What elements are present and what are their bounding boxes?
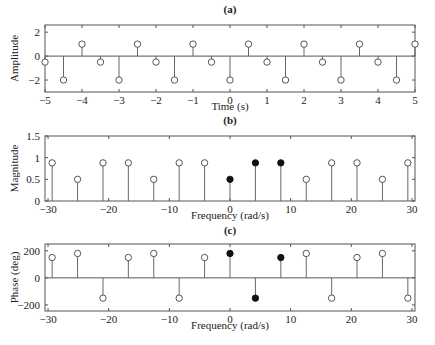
stem-marker-open	[190, 41, 196, 47]
panel-b: (b)−30−20−10010203000.511.5Frequency (ra…	[8, 114, 418, 222]
y-tick-label: −200	[17, 299, 40, 311]
x-tick-label: 10	[285, 203, 297, 215]
stem-marker-open	[125, 160, 131, 166]
stem-marker-open	[134, 41, 140, 47]
panel-a: (a)−5−4−3−2−1012345−202Time (s)Amplitude	[8, 3, 418, 113]
stem-marker-open	[379, 250, 385, 256]
x-tick-label: 1	[264, 94, 270, 106]
stem-marker-open	[303, 176, 309, 182]
stem-marker-filled	[227, 176, 233, 182]
stem-marker-filled	[278, 160, 284, 166]
series	[227, 250, 284, 301]
stem-marker-open	[60, 77, 66, 83]
y-axis-label: Amplitude	[8, 35, 20, 82]
x-axis-label: Frequency (rad/s)	[191, 209, 269, 222]
stem-marker-open	[100, 160, 106, 166]
stem-marker-filled	[227, 250, 233, 256]
stem-marker-open	[74, 176, 80, 182]
stem-marker-open	[176, 160, 182, 166]
x-tick-label: −20	[100, 203, 118, 215]
stem-marker-open	[412, 41, 418, 47]
panel-title: (a)	[224, 3, 237, 16]
stem-marker-open	[375, 59, 381, 65]
stem-marker-open	[151, 176, 157, 182]
stem-marker-open	[328, 295, 334, 301]
stem-marker-open	[49, 160, 55, 166]
x-tick-label: 20	[346, 313, 358, 325]
stem-marker-open	[356, 41, 362, 47]
stem-marker-open	[201, 254, 207, 260]
x-tick-label: −20	[100, 313, 118, 325]
stem-marker-open	[227, 77, 233, 83]
stem-marker-open	[393, 77, 399, 83]
y-tick-label: 1.5	[26, 130, 40, 142]
y-tick-label: 200	[24, 245, 41, 257]
stem-plots-figure: (a)−5−4−3−2−1012345−202Time (s)Amplitude…	[0, 0, 435, 345]
panel-title: (b)	[223, 114, 237, 127]
x-tick-label: −4	[76, 94, 88, 106]
x-tick-label: −30	[39, 313, 57, 325]
x-tick-label: −5	[39, 94, 51, 106]
y-tick-label: 2	[35, 26, 41, 38]
y-axis-label: Phase (deg)	[8, 251, 21, 303]
stem-marker-open	[379, 176, 385, 182]
x-tick-label: −3	[113, 94, 125, 106]
stem-marker-open	[151, 250, 157, 256]
stem-marker-open	[100, 295, 106, 301]
x-tick-label: −2	[150, 94, 162, 106]
stem-marker-open	[264, 59, 270, 65]
x-tick-label: 30	[406, 203, 418, 215]
stem-marker-open	[74, 250, 80, 256]
stem-marker-open	[405, 160, 411, 166]
y-tick-label: 0	[35, 50, 41, 62]
stem-marker-open	[405, 295, 411, 301]
x-tick-label: 4	[375, 94, 381, 106]
x-tick-label: 20	[346, 203, 358, 215]
stem-marker-open	[79, 41, 85, 47]
stem-marker-open	[125, 254, 131, 260]
stem-marker-open	[301, 41, 307, 47]
stem-marker-open	[201, 160, 207, 166]
panel-c: (c)−30−20−100102030−2000200Frequency (ra…	[8, 224, 418, 332]
stem-marker-open	[354, 254, 360, 260]
x-tick-label: 3	[338, 94, 344, 106]
y-tick-label: 0.5	[26, 173, 40, 185]
stem-marker-open	[42, 59, 48, 65]
x-tick-label: −10	[161, 203, 179, 215]
stem-marker-open	[97, 59, 103, 65]
stem-marker-open	[153, 59, 159, 65]
figure: (a)−5−4−3−2−1012345−202Time (s)Amplitude…	[0, 0, 435, 345]
stem-marker-open	[176, 295, 182, 301]
x-tick-label: −10	[161, 313, 179, 325]
stem-marker-filled	[252, 295, 258, 301]
stem-marker-open	[282, 77, 288, 83]
y-axis-label: Magnitude	[8, 145, 20, 193]
x-tick-label: 2	[301, 94, 307, 106]
stem-marker-open	[171, 77, 177, 83]
stem-marker-open	[338, 77, 344, 83]
x-axis-label: Frequency (rad/s)	[191, 319, 269, 332]
x-tick-label: −30	[39, 203, 57, 215]
y-tick-label: 0	[35, 195, 41, 207]
stem-marker-open	[49, 254, 55, 260]
series	[42, 41, 418, 83]
stem-marker-open	[303, 250, 309, 256]
stem-marker-filled	[252, 160, 258, 166]
y-tick-label: 0	[35, 272, 41, 284]
stem-marker-filled	[278, 254, 284, 260]
stem-marker-open	[328, 160, 334, 166]
panel-title: (c)	[224, 224, 237, 237]
y-tick-label: −2	[28, 74, 40, 86]
x-tick-label: −1	[187, 94, 199, 106]
x-tick-label: 10	[285, 313, 297, 325]
x-axis-label: Time (s)	[211, 100, 249, 113]
stem-marker-open	[245, 41, 251, 47]
x-tick-label: 30	[406, 313, 418, 325]
stem-marker-open	[354, 160, 360, 166]
stem-marker-open	[116, 77, 122, 83]
stem-marker-open	[319, 59, 325, 65]
series	[227, 160, 284, 201]
y-tick-label: 1	[35, 152, 41, 164]
x-tick-label: 5	[412, 94, 418, 106]
stem-marker-open	[208, 59, 214, 65]
